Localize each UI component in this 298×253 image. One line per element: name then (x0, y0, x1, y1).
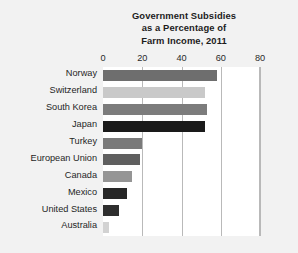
category-label-australia: Australia (61, 220, 97, 230)
x-tick-label-80: 80 (255, 53, 265, 63)
category-label-south-korea: South Korea (46, 102, 97, 112)
gridline-40 (182, 67, 183, 236)
chart-title-line-2: as a Percentage of (96, 22, 272, 34)
chart-figure: Government Subsidies as a Percentage of … (0, 0, 298, 253)
category-label-norway: Norway (66, 68, 97, 78)
category-label-switzerland: Switzerland (50, 85, 98, 95)
gridline-80 (260, 67, 261, 236)
x-axis-tick-labels: 020406080 (0, 53, 298, 66)
category-label-turkey: Turkey (69, 136, 97, 146)
chart-title-line-3: Farm Income, 2011 (96, 35, 272, 47)
category-label-mexico: Mexico (68, 187, 97, 197)
gridline-20 (142, 67, 143, 236)
x-tick-label-40: 40 (176, 53, 186, 63)
gridline-60 (221, 67, 222, 236)
chart-title-line-1: Government Subsidies (96, 10, 272, 22)
x-tick-label-60: 60 (216, 53, 226, 63)
plot-right-border (259, 67, 260, 236)
category-label-european-union: European Union (31, 153, 97, 163)
category-label-japan: Japan (72, 119, 97, 129)
plot-area (103, 67, 260, 236)
chart-title: Government Subsidies as a Percentage of … (96, 10, 272, 47)
x-tick-label-0: 0 (100, 53, 105, 63)
x-tick-label-20: 20 (137, 53, 147, 63)
category-label-united-states: United States (42, 204, 97, 214)
category-label-canada: Canada (65, 170, 97, 180)
